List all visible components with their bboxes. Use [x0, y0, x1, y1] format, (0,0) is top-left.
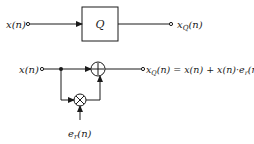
- top-input-terminal: [26, 22, 29, 25]
- top-output-label: xQ(n): [177, 19, 203, 32]
- quantizer-diagram: x(n) Q xQ(n) x(n) er(n) xQ(n) = x(n) + x…: [0, 0, 254, 144]
- quantizer-block-diagram: x(n) Q xQ(n): [6, 7, 203, 41]
- branch-arrow: [61, 69, 74, 100]
- quantizer-label: Q: [95, 18, 104, 31]
- output-equation: xQ(n) = x(n) + x(n)·er(n): [146, 64, 254, 77]
- top-output-terminal: [169, 22, 172, 25]
- noise-label: er(n): [68, 128, 92, 141]
- product-arrow: [86, 76, 100, 100]
- bottom-input-label: x(n): [19, 64, 39, 75]
- top-input-label: x(n): [6, 19, 26, 30]
- bottom-input-terminal: [40, 67, 43, 70]
- noise-model-diagram: x(n) er(n) xQ(n) = x(n) + x(n)·er(n): [19, 62, 254, 141]
- bottom-output-terminal: [141, 67, 144, 70]
